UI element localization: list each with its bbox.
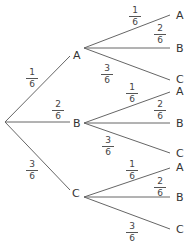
node-b: B (73, 118, 81, 129)
prob-numerator: 1 (26, 68, 38, 79)
prob-denominator: 6 (52, 111, 64, 121)
prob-numerator: 3 (26, 160, 38, 171)
node-a: A (73, 50, 81, 61)
prob-numerator: 1 (129, 6, 141, 17)
prob-denominator: 6 (102, 147, 114, 157)
prob-denominator: 6 (154, 111, 166, 121)
tree-branches (0, 0, 196, 245)
prob-denominator: 6 (26, 171, 38, 181)
prob-root-b: 2 6 (52, 100, 64, 121)
prob-numerator: 3 (126, 222, 138, 233)
prob-numerator: 2 (154, 24, 166, 35)
prob-denominator: 6 (126, 94, 138, 104)
branch-b-c (84, 123, 170, 153)
prob-b-c: 3 6 (102, 136, 114, 157)
leaf-a-c: C (176, 74, 184, 85)
prob-numerator: 2 (52, 100, 64, 111)
branch-a-c (84, 48, 170, 80)
prob-numerator: 2 (154, 100, 166, 111)
prob-c-b: 2 6 (154, 177, 166, 198)
leaf-c-a: A (176, 162, 184, 173)
prob-numerator: 2 (154, 177, 166, 188)
prob-c-c: 3 6 (126, 222, 138, 243)
prob-c-a: 1 6 (126, 160, 138, 181)
leaf-a-a: A (176, 10, 184, 21)
prob-numerator: 3 (101, 64, 113, 75)
prob-numerator: 1 (126, 83, 138, 94)
prob-numerator: 1 (126, 160, 138, 171)
prob-a-c: 3 6 (101, 64, 113, 85)
prob-a-a: 1 6 (129, 6, 141, 27)
prob-denominator: 6 (154, 35, 166, 45)
prob-denominator: 6 (129, 17, 141, 27)
prob-denominator: 6 (101, 75, 113, 85)
leaf-a-b: B (176, 43, 184, 54)
leaf-c-b: B (176, 192, 184, 203)
prob-b-b: 2 6 (154, 100, 166, 121)
prob-numerator: 3 (102, 136, 114, 147)
leaf-b-b: B (176, 118, 184, 129)
prob-denominator: 6 (154, 188, 166, 198)
node-c: C (72, 188, 80, 199)
prob-denominator: 6 (126, 233, 138, 243)
leaf-c-c: C (176, 224, 184, 235)
prob-root-c: 3 6 (26, 160, 38, 181)
leaf-b-a: A (176, 86, 184, 97)
prob-a-b: 2 6 (154, 24, 166, 45)
prob-b-a: 1 6 (126, 83, 138, 104)
leaf-b-c: C (176, 148, 184, 159)
prob-denominator: 6 (26, 79, 38, 89)
prob-denominator: 6 (126, 171, 138, 181)
prob-root-a: 1 6 (26, 68, 38, 89)
